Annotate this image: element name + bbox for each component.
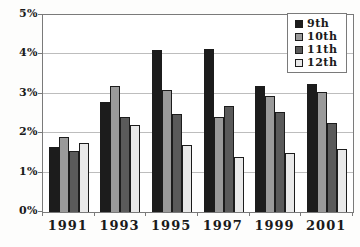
bar-9th-1997: [204, 49, 214, 213]
y-tick-label-0%: 0%: [8, 205, 38, 217]
bar-9th-1995: [152, 50, 162, 212]
bar-12th-1991: [79, 143, 89, 212]
legend-item-10th: 10th: [295, 30, 346, 43]
bar-10th-1999: [265, 96, 275, 212]
x-axis-tick: [145, 212, 146, 216]
legend-item-label: 11th: [307, 44, 337, 55]
legend-item-12th: 12th: [295, 56, 346, 69]
bar-group-1995: [146, 15, 198, 212]
x-tick-label-2001: 2001: [300, 218, 352, 233]
y-axis-tick: [38, 93, 42, 94]
grouped-bar-chart: 9th10th11th12th 199119931995199719992001…: [0, 0, 360, 247]
legend-item-label: 9th: [307, 18, 329, 29]
bar-11th-1999: [275, 112, 285, 212]
y-axis-tick: [38, 211, 42, 212]
bar-group-1997: [198, 15, 250, 212]
legend-swatch-12th: [295, 59, 303, 67]
bar-10th-1993: [110, 86, 120, 212]
bar-11th-1997: [224, 106, 234, 212]
x-axis-tick: [94, 212, 95, 216]
bar-12th-1999: [285, 153, 295, 212]
bar-11th-1991: [69, 151, 79, 212]
y-axis-tick: [38, 53, 42, 54]
legend-item-label: 10th: [307, 31, 337, 42]
y-tick-label-5%: 5%: [8, 8, 38, 20]
bar-group-1991: [43, 15, 95, 212]
bar-10th-1995: [162, 90, 172, 212]
legend-item-11th: 11th: [295, 43, 346, 56]
y-tick-label-2%: 2%: [8, 126, 38, 138]
bar-9th-1991: [49, 147, 59, 212]
x-tick-label-1999: 1999: [249, 218, 301, 233]
legend-item-9th: 9th: [295, 17, 346, 30]
bar-12th-1995: [182, 145, 192, 212]
bar-11th-1993: [120, 117, 130, 212]
bar-11th-1995: [172, 114, 182, 213]
bar-9th-1993: [100, 102, 110, 212]
legend-swatch-11th: [295, 46, 303, 54]
bar-12th-1997: [234, 157, 244, 212]
x-axis-tick: [42, 212, 43, 216]
bar-9th-2001: [307, 84, 317, 212]
bar-12th-2001: [337, 149, 347, 212]
x-tick-label-1991: 1991: [42, 218, 94, 233]
bar-group-1993: [95, 15, 147, 212]
x-axis-tick: [300, 212, 301, 216]
x-axis-tick: [352, 212, 353, 216]
y-tick-label-1%: 1%: [8, 166, 38, 178]
x-tick-label-1997: 1997: [197, 218, 249, 233]
x-axis-tick: [197, 212, 198, 216]
y-tick-label-3%: 3%: [8, 87, 38, 99]
bar-10th-1997: [214, 117, 224, 212]
x-tick-label-1993: 1993: [94, 218, 146, 233]
bar-11th-2001: [327, 123, 337, 212]
bar-12th-1993: [130, 125, 140, 212]
y-tick-label-4%: 4%: [8, 47, 38, 59]
bar-10th-1991: [59, 137, 69, 212]
x-axis-tick: [249, 212, 250, 216]
legend-item-label: 12th: [307, 57, 337, 68]
y-axis-tick: [38, 14, 42, 15]
y-axis-tick: [38, 132, 42, 133]
bar-9th-1999: [255, 86, 265, 212]
y-axis-tick: [38, 172, 42, 173]
x-tick-label-1995: 1995: [145, 218, 197, 233]
legend-swatch-9th: [295, 20, 303, 28]
legend-swatch-10th: [295, 33, 303, 41]
legend: 9th10th11th12th: [287, 13, 347, 73]
bar-10th-2001: [317, 92, 327, 212]
